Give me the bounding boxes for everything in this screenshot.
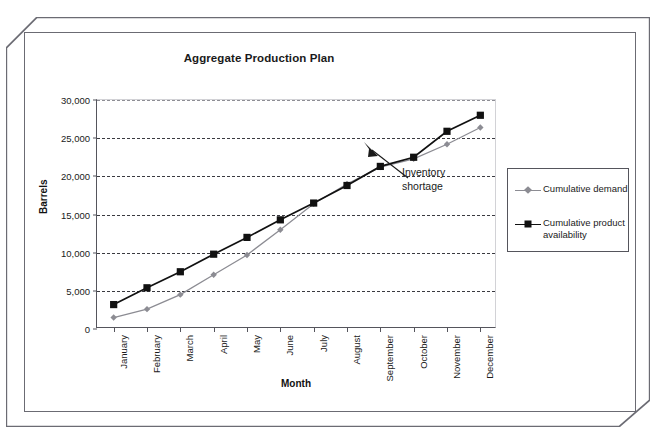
plot-area: 05,00010,00015,00020,00025,00030,000 Jan… — [96, 99, 496, 328]
x-tick-label-december: December — [484, 335, 495, 379]
data-point — [210, 272, 216, 278]
inventory-shortage-annotation: Inventory shortage — [402, 165, 476, 193]
data-point — [310, 199, 317, 206]
x-tick-label-march: March — [184, 335, 195, 361]
x-tick-label-july: July — [318, 335, 329, 352]
y-tick-label: 25,000 — [61, 133, 90, 144]
legend-label-cumulative-demand: Cumulative demand — [543, 183, 628, 195]
x-tick-label-january: January — [118, 335, 129, 369]
data-point — [143, 284, 150, 291]
y-tick-label: 15,000 — [61, 209, 90, 220]
data-point — [444, 141, 450, 147]
data-point — [243, 234, 250, 241]
series-line-demand — [114, 127, 481, 317]
legend-swatch-square-icon — [515, 218, 541, 230]
x-tick-label-may: May — [251, 335, 262, 353]
x-tick-label-october: October — [418, 335, 429, 369]
data-point — [477, 124, 483, 130]
y-tick-label: 10,000 — [61, 247, 90, 258]
y-tick-label: 20,000 — [61, 171, 90, 182]
data-point — [343, 182, 350, 189]
data-point — [477, 112, 484, 119]
chart-title: Aggregate Production Plan — [24, 52, 494, 64]
x-tick-label-february: February — [151, 335, 162, 373]
legend-item-cumulative-product-availability: Cumulative product availability — [515, 217, 628, 240]
page-header-scrap — [28, 0, 588, 9]
data-point — [177, 291, 183, 297]
legend-swatch-diamond-icon — [515, 184, 541, 196]
x-tick-label-september: September — [384, 335, 395, 381]
y-tick-label: 5,000 — [66, 285, 90, 296]
data-point — [110, 301, 117, 308]
data-point — [177, 268, 184, 275]
y-tick-label: 0 — [85, 324, 90, 335]
x-tick-label-april: April — [218, 335, 229, 354]
legend-label-cumulative-product-availability: Cumulative product availability — [543, 217, 628, 240]
series-line-availability — [114, 115, 481, 304]
data-point — [443, 128, 450, 135]
data-point — [110, 314, 116, 320]
data-point — [210, 251, 217, 258]
legend-item-cumulative-demand: Cumulative demand — [515, 183, 628, 196]
x-tick-label-november: November — [451, 335, 462, 379]
x-axis-title: Month — [96, 378, 496, 389]
x-tick-label-june: June — [284, 335, 295, 356]
data-point — [277, 216, 284, 223]
y-axis-title: Barrels — [38, 180, 49, 214]
chart-legend: Cumulative demand Cumulative product ava… — [507, 168, 629, 252]
data-point — [144, 306, 150, 312]
chart-area: Aggregate Production Plan Barrels Month … — [24, 32, 636, 412]
y-tick-label: 30,000 — [61, 95, 90, 106]
x-tick-label-august: August — [351, 335, 362, 365]
series-layer — [97, 100, 497, 329]
